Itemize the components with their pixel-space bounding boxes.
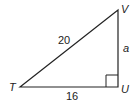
vertex-label-u: U (121, 83, 129, 95)
hypotenuse-label: 20 (58, 34, 70, 46)
base-label: 16 (66, 90, 78, 102)
vertex-label-t: T (9, 81, 17, 93)
leg-label: a (123, 42, 129, 54)
vertex-label-v: V (121, 3, 130, 15)
triangle-diagram: T V U 20 16 a (0, 0, 140, 102)
right-angle-marker (106, 75, 118, 87)
triangle-tuv (20, 10, 118, 87)
